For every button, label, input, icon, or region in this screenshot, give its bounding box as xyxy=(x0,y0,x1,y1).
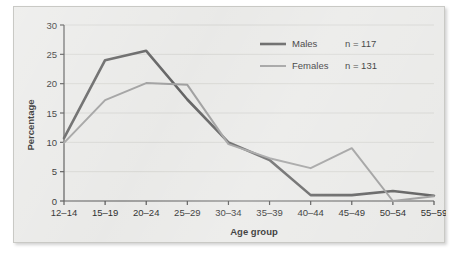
y-axis-tick-labels: 051015202530 xyxy=(46,20,57,207)
line-chart: 051015202530 12–1415–1920–2425–2930–3435… xyxy=(14,7,446,244)
x-axis-ticks xyxy=(64,201,434,205)
x-tick-label: 15–19 xyxy=(92,207,118,218)
y-tick-label: 0 xyxy=(52,196,57,207)
y-tick-label: 25 xyxy=(46,49,57,60)
y-tick-label: 5 xyxy=(52,166,57,177)
x-tick-label: 45–49 xyxy=(339,207,365,218)
legend-n-females: n = 131 xyxy=(345,60,377,71)
y-tick-label: 15 xyxy=(46,108,57,119)
x-tick-label: 25–29 xyxy=(174,207,200,218)
x-tick-label: 35–39 xyxy=(256,207,282,218)
y-tick-label: 10 xyxy=(46,137,57,148)
x-tick-label: 55–59 xyxy=(421,207,446,218)
y-tick-label: 20 xyxy=(46,78,57,89)
x-axis-title: Age group xyxy=(230,226,278,237)
chart-figure-panel: 051015202530 12–1415–1920–2425–2930–3435… xyxy=(13,6,445,243)
x-axis-tick-labels: 12–1415–1920–2425–2930–3435–3940–4445–49… xyxy=(51,207,446,218)
y-tick-label: 30 xyxy=(46,20,57,31)
gridlines xyxy=(64,25,434,172)
legend-n-males: n = 117 xyxy=(345,38,376,49)
series-line-males xyxy=(64,51,434,196)
legend-label-females: Females xyxy=(292,60,329,71)
series-lines xyxy=(64,51,434,201)
x-tick-label: 30–34 xyxy=(215,207,241,218)
x-tick-label: 12–14 xyxy=(51,207,77,218)
y-axis-title: Percentage xyxy=(25,99,36,150)
legend-label-males: Males xyxy=(292,38,318,49)
x-tick-label: 50–54 xyxy=(380,207,406,218)
x-tick-label: 40–44 xyxy=(297,207,323,218)
x-tick-label: 20–24 xyxy=(133,207,159,218)
